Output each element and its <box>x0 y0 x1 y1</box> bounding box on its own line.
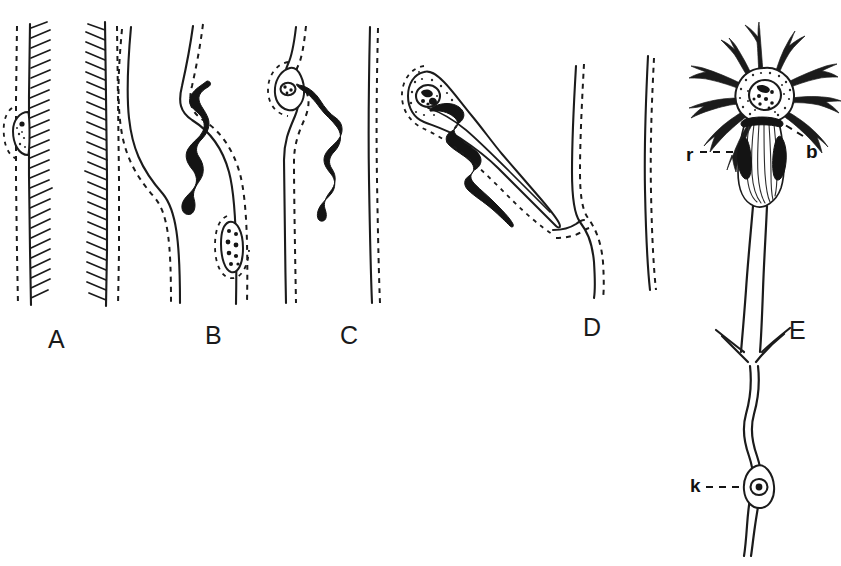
figure-canvas: A B C D E r b k <box>0 0 841 566</box>
panel-e-axon-cell-nucleolus <box>756 484 763 491</box>
panel-c-right-wall-solid <box>369 27 372 303</box>
panel-a-right-wall-dashed <box>117 26 119 306</box>
callout-letter-r: r <box>686 145 693 164</box>
panel-a-left-wall-solid <box>29 24 31 305</box>
panel-e-axon-lower-right <box>751 366 761 556</box>
panel-c-serpentine-body <box>296 84 342 221</box>
panel-c-right-wall-dashed <box>377 28 380 303</box>
panel-e-soma-nucleus <box>749 80 781 110</box>
panel-e-axon-right-edge <box>760 206 767 352</box>
panel-e-vessel-dashed <box>651 58 656 290</box>
panel-letter-c: C <box>340 323 359 348</box>
panel-a-cell <box>4 108 30 160</box>
callout-letter-b: b <box>806 142 818 161</box>
panel-b-group <box>119 24 249 304</box>
panel-e-hillock-cap <box>741 117 783 127</box>
panel-letter-b: B <box>205 323 222 348</box>
panel-d-vessel-upper-solid <box>572 66 595 298</box>
panel-b-granule-cell <box>215 216 249 278</box>
panel-d-vessel-upper-dashed <box>580 64 604 298</box>
panel-d-group <box>402 64 604 298</box>
panel-e-vessel-group <box>645 56 656 290</box>
panel-b-serpentine-body <box>182 81 211 215</box>
panel-d-cell <box>402 66 560 234</box>
dendrite-right <box>788 97 841 114</box>
panel-e-axon-left-edge <box>741 206 753 352</box>
panel-e-axon-lower-left <box>744 366 753 556</box>
panel-a-right-wall-solid <box>105 22 107 306</box>
panel-b-left-wall-dashed <box>119 29 171 304</box>
callout-letter-k: k <box>690 476 701 495</box>
panel-e-dark-body-left <box>738 137 752 179</box>
figure-drawing <box>0 0 841 566</box>
panel-a-cell-nucleus <box>19 121 24 126</box>
panel-letter-a: A <box>48 327 65 352</box>
panel-a-group <box>4 22 119 306</box>
panel-letter-d: D <box>583 315 602 340</box>
panel-letter-e: E <box>789 318 806 343</box>
panel-e-axon-fork-left-inner <box>722 336 748 362</box>
panel-e-axon-fork-left <box>716 330 744 352</box>
panel-b-left-wall-solid <box>128 27 180 303</box>
panel-e-vessel-solid <box>645 56 650 290</box>
panel-a-left-wall-hatching <box>30 22 52 298</box>
panel-a-left-wall-dashed <box>16 26 18 306</box>
panel-e-neuron-group <box>689 22 841 556</box>
panel-e-axon-cell-k <box>744 465 774 508</box>
dendrite-top-left <box>721 38 752 77</box>
panel-c-group <box>268 26 380 303</box>
panel-c-left-wall-dashed <box>294 26 309 303</box>
panel-a-right-wall-hatching <box>85 24 107 300</box>
